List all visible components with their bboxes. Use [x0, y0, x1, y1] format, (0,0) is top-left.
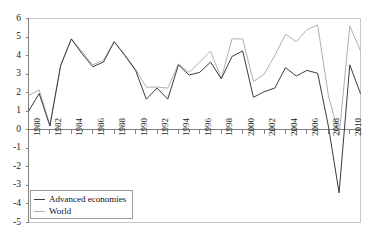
- x-axis-tick-label: 1982: [54, 118, 63, 136]
- chart-container: 6543210-1-2-3-4-5 1980198219841986198819…: [0, 0, 383, 235]
- x-axis-tick-label: 2010: [354, 118, 363, 136]
- y-axis-tick-label: 3: [5, 69, 21, 79]
- x-axis-tick-label: 1984: [75, 118, 84, 136]
- y-axis-tick-label: 5: [5, 32, 21, 42]
- x-axis-tick-label: 2008: [332, 118, 341, 136]
- x-axis-tick-label: 1998: [225, 118, 234, 136]
- x-axis-tick-label: 1988: [118, 118, 127, 136]
- legend-swatch-advanced-economies: [34, 199, 45, 200]
- x-axis-tick-label: 1994: [182, 118, 191, 136]
- y-axis-tick-label: -5: [5, 218, 21, 228]
- x-axis-tick-label: 1996: [204, 118, 213, 136]
- legend-label-advanced-economies: Advanced economies: [49, 194, 126, 204]
- legend-swatch-world: [34, 211, 45, 212]
- legend-item-world: World: [34, 205, 132, 217]
- x-axis-tick-label: 2004: [290, 118, 299, 136]
- x-axis-tick-label: 1992: [161, 118, 170, 136]
- y-axis-tick-label: -1: [5, 143, 21, 153]
- y-axis-tick-label: -4: [5, 199, 21, 209]
- x-axis-tick-label: 2000: [247, 118, 256, 136]
- y-axis-tick-label: 0: [5, 125, 21, 135]
- series-line-advanced-economies: [29, 39, 361, 193]
- y-axis-tick-label: 1: [5, 106, 21, 116]
- x-axis-tick-label: 2006: [311, 118, 320, 136]
- x-axis-tick-label: 1980: [33, 118, 42, 136]
- y-axis-tick-label: 6: [5, 14, 21, 24]
- x-axis-tick-label: 2002: [268, 118, 277, 136]
- y-axis-tick-label: 2: [5, 88, 21, 98]
- legend-item-advanced-economies: Advanced economies: [34, 193, 132, 205]
- data-series-lines: [29, 25, 361, 193]
- y-axis-tick-label: 4: [5, 51, 21, 61]
- y-axis-tick-label: -3: [5, 180, 21, 190]
- y-axis-tick-label: -2: [5, 162, 21, 172]
- x-axis-tick-label: 1990: [140, 118, 149, 136]
- x-axis-tick-label: 1986: [97, 118, 106, 136]
- legend-label-world: World: [49, 206, 71, 216]
- chart-legend: Advanced economies World: [30, 190, 133, 219]
